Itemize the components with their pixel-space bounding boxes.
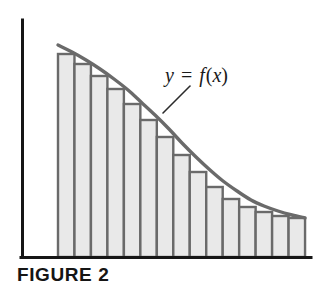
riemann-rectangle bbox=[157, 137, 173, 257]
riemann-rectangle bbox=[223, 199, 239, 257]
riemann-rectangle bbox=[124, 104, 140, 257]
riemann-rectangle bbox=[289, 218, 305, 257]
riemann-sum-figure: y=f(x) bbox=[0, 0, 331, 295]
curve-label-equals: = bbox=[181, 64, 192, 86]
riemann-rectangle bbox=[272, 216, 288, 257]
riemann-rectangle bbox=[190, 172, 206, 257]
curve-label-paren-close: ) bbox=[221, 64, 228, 87]
figure-container: y=f(x) FIGURE 2 bbox=[0, 0, 331, 295]
riemann-rectangle bbox=[74, 64, 90, 257]
riemann-rectangle bbox=[140, 120, 156, 257]
figure-caption: FIGURE 2 bbox=[17, 264, 109, 286]
riemann-rectangle bbox=[107, 89, 123, 257]
riemann-rectangle bbox=[256, 212, 272, 257]
riemann-rectangle bbox=[206, 187, 222, 257]
curve-label-y: y bbox=[163, 64, 174, 87]
curve-label: y=f(x) bbox=[163, 64, 228, 87]
riemann-rectangle bbox=[239, 207, 255, 257]
riemann-rectangle bbox=[173, 155, 189, 257]
riemann-rectangle bbox=[58, 54, 74, 257]
curve-label-x: x bbox=[211, 64, 221, 86]
riemann-rectangle bbox=[91, 76, 107, 257]
label-leader-line bbox=[163, 86, 190, 113]
